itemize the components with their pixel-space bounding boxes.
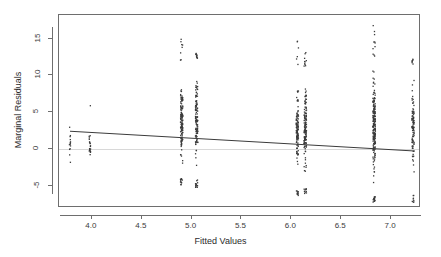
x-tick-mark [290, 215, 291, 219]
x-tick-mark [240, 215, 241, 219]
x-tick-label: 5.0 [185, 221, 196, 230]
x-tick-label: 7.0 [385, 221, 396, 230]
y-axis-title: Marginal Residuals [13, 45, 23, 175]
x-tick-label: 5.5 [235, 221, 246, 230]
y-tick-label: 5 [31, 109, 40, 113]
x-tick-mark [390, 215, 391, 219]
x-tick-mark [191, 215, 192, 219]
y-tick-label: 15 [33, 33, 42, 42]
x-tick-label: 6.0 [285, 221, 296, 230]
y-tick-mark [48, 38, 52, 39]
y-tick-mark [48, 185, 52, 186]
y-tick-mark [48, 148, 52, 149]
plot-area [58, 14, 420, 207]
scatter-points-canvas [59, 15, 420, 207]
y-tick-label: -5 [32, 181, 41, 188]
x-tick-label: 6.5 [335, 221, 346, 230]
y-tick-label: 0 [31, 146, 40, 150]
x-tick-mark [141, 215, 142, 219]
x-tick-label: 4.5 [135, 221, 146, 230]
y-axis-line [52, 27, 53, 194]
y-tick-mark [48, 74, 52, 75]
x-tick-mark [340, 215, 341, 219]
x-tick-label: 4.0 [85, 221, 96, 230]
y-tick-mark [48, 111, 52, 112]
x-tick-mark [91, 215, 92, 219]
y-tick-label: 10 [33, 70, 42, 79]
x-axis-title: Fitted Values [0, 236, 441, 246]
residual-plot-figure: 4.04.55.05.56.06.57.0 -5051015 Fitted Va… [0, 0, 441, 257]
